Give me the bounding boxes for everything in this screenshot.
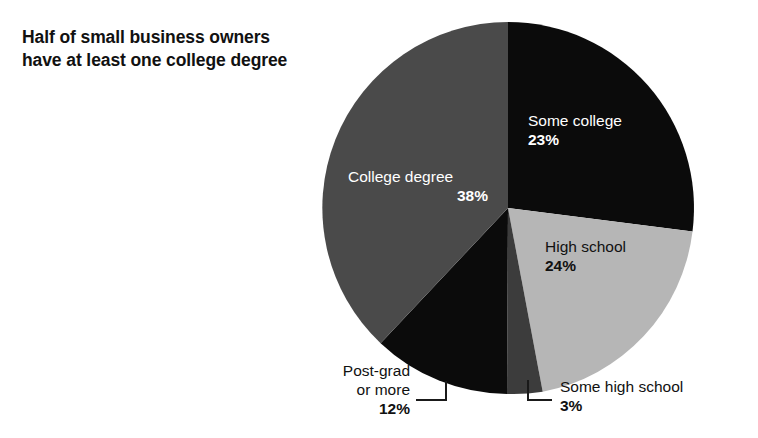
slice-label-post-grad-name: Post-grad or more (288, 362, 410, 400)
slice-label-some-college: Some college 23% (528, 112, 622, 150)
slice-label-post-grad-value: 12% (288, 400, 410, 419)
slice-label-high-school-name: High school (545, 238, 626, 257)
slice-label-college-degree-name: College degree (348, 168, 488, 187)
slice-label-some-college-name: Some college (528, 112, 622, 131)
slice-label-high-school-value: 24% (545, 257, 626, 276)
slice-label-some-high-school-name: Some high school (560, 378, 683, 397)
slice-label-post-grad: Post-grad or more 12% (288, 362, 410, 419)
chart-page: Half of small business owners have at le… (0, 0, 758, 438)
leader-line-post-grad (416, 381, 446, 400)
slice-label-high-school: High school 24% (545, 238, 626, 276)
slice-label-some-college-value: 23% (528, 131, 622, 150)
slice-label-college-degree: College degree 38% (348, 168, 488, 206)
slice-label-college-degree-value: 38% (348, 187, 488, 206)
slice-label-some-high-school: Some high school 3% (560, 378, 683, 416)
slice-label-some-high-school-value: 3% (560, 397, 683, 416)
